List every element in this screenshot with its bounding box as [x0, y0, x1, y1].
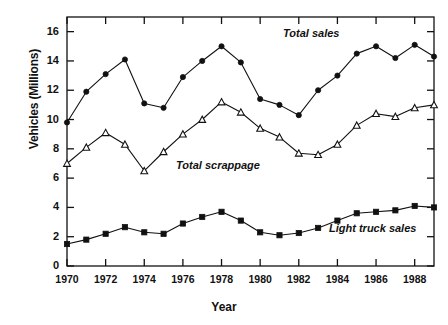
series-label-total-scrappage: Total scrappage: [176, 159, 260, 171]
chart-figure: Vehicles (Millions) Year 0246810121416 1…: [0, 0, 448, 325]
series-total-sales: [64, 42, 436, 125]
series-label-total-sales: Total sales: [283, 27, 339, 39]
series-label-light-truck-sales: Light truck sales: [329, 222, 416, 234]
